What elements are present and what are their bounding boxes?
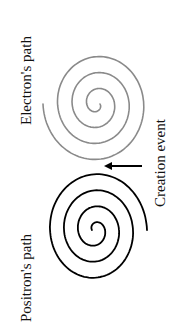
electron-path-spiral — [43, 57, 144, 160]
electron-path-label: Electron's path — [18, 36, 34, 125]
creation-event-label: Creation event — [152, 118, 168, 207]
positron-path-spiral — [50, 174, 147, 278]
positron-path-label: Positron's path — [18, 233, 34, 322]
pair-production-diagram: Electron's path Positron's path Creation… — [0, 0, 177, 326]
creation-arrow-icon — [104, 162, 142, 170]
